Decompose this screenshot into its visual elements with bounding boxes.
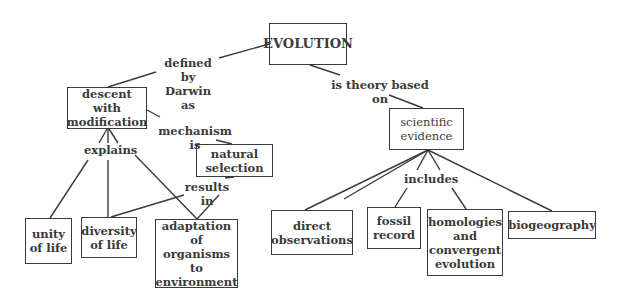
node-direct-observations: direct observations bbox=[271, 210, 353, 255]
node-unity-of-life: unity of life bbox=[25, 218, 72, 264]
node-biogeography-label: biogeography bbox=[508, 218, 596, 232]
node-biogeography: biogeography bbox=[508, 211, 596, 239]
node-scientific-evidence: scientific evidence bbox=[389, 108, 464, 150]
node-evolution: EVOLUTION bbox=[269, 23, 347, 65]
link-label-theory-based: is theory based on bbox=[330, 78, 430, 106]
node-diversity-of-life: diversity of life bbox=[81, 217, 137, 258]
node-adaptation: adaptation of organisms to environment bbox=[155, 219, 238, 288]
node-diversity-label: diversity of life bbox=[81, 224, 136, 252]
node-fossil-label: fossil record bbox=[373, 214, 415, 242]
node-unity-label: unity of life bbox=[30, 227, 68, 255]
node-evolution-label: EVOLUTION bbox=[263, 37, 353, 51]
link-label-mechanism: mechanism is bbox=[152, 124, 238, 152]
node-fossil-record: fossil record bbox=[367, 207, 421, 249]
node-descent-with-modification: descent with modification bbox=[67, 87, 147, 129]
node-adaptation-label: adaptation of organisms to environment bbox=[156, 219, 238, 289]
node-direct-obs-label: direct observations bbox=[271, 219, 353, 247]
node-descent-label: descent with modification bbox=[67, 87, 148, 129]
link-label-results-in: results in bbox=[181, 180, 233, 208]
link-label-includes: includes bbox=[404, 172, 454, 186]
link-label-defined-by: defined by Darwin as bbox=[156, 56, 220, 112]
link-label-explains: explains bbox=[84, 143, 134, 157]
node-homologies: homologies and convergent evolution bbox=[427, 209, 503, 276]
node-homologies-label: homologies and convergent evolution bbox=[428, 215, 502, 271]
node-scientific-evidence-label: scientific evidence bbox=[400, 115, 453, 143]
